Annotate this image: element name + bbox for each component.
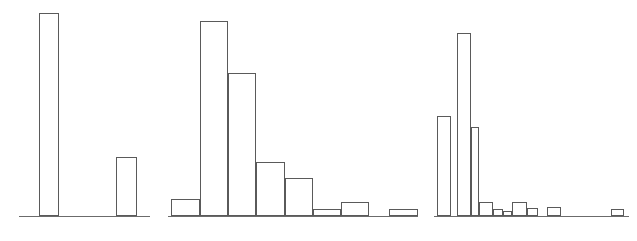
histogram-panel-2 (168, 22, 418, 217)
histogram-panel-3 (434, 34, 629, 217)
histogram-bar (458, 34, 471, 216)
histogram-bar (494, 210, 503, 216)
histogram-bar (286, 179, 313, 216)
histogram-bar (40, 14, 59, 216)
histogram-bar (438, 117, 451, 216)
histogram-bar (172, 200, 200, 216)
histogram-bar (472, 128, 479, 216)
histogram-bar (528, 209, 538, 216)
histogram-figure-canvas (0, 0, 637, 241)
histogram-bar (480, 203, 493, 216)
histogram-bar (504, 212, 512, 216)
histogram-bar (342, 203, 369, 216)
histogram-bar (390, 210, 418, 216)
histogram-bar (548, 208, 561, 216)
histogram-bar (257, 163, 285, 216)
histogram-bar (201, 22, 228, 216)
histogram-bar (513, 203, 527, 216)
histogram-panel-1 (19, 14, 150, 217)
histogram-bar (314, 210, 341, 216)
histogram-bar (229, 74, 256, 216)
histogram-bar (117, 158, 137, 216)
histogram-figure (0, 0, 637, 241)
histogram-bar (612, 210, 624, 216)
